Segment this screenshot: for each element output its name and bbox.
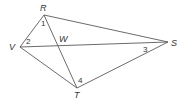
vertex-label-r: R <box>40 3 47 13</box>
segment-tv <box>20 47 77 88</box>
diagonal-rt <box>44 15 77 88</box>
angle-labels: 1 2 3 4 <box>26 19 148 85</box>
angle-label-1: 1 <box>41 19 46 28</box>
angle-label-2: 2 <box>26 37 31 46</box>
vertex-label-t: T <box>74 90 81 100</box>
angle-label-4: 4 <box>78 76 83 85</box>
vertex-labels: R V S T W <box>9 3 177 100</box>
vertex-label-w: W <box>59 34 69 44</box>
angle-label-3: 3 <box>143 45 148 54</box>
vertex-label-s: S <box>171 38 177 48</box>
vertex-label-v: V <box>9 42 16 52</box>
segment-st <box>77 42 168 88</box>
geometry-diagram: R V S T W 1 2 3 4 <box>0 0 187 104</box>
